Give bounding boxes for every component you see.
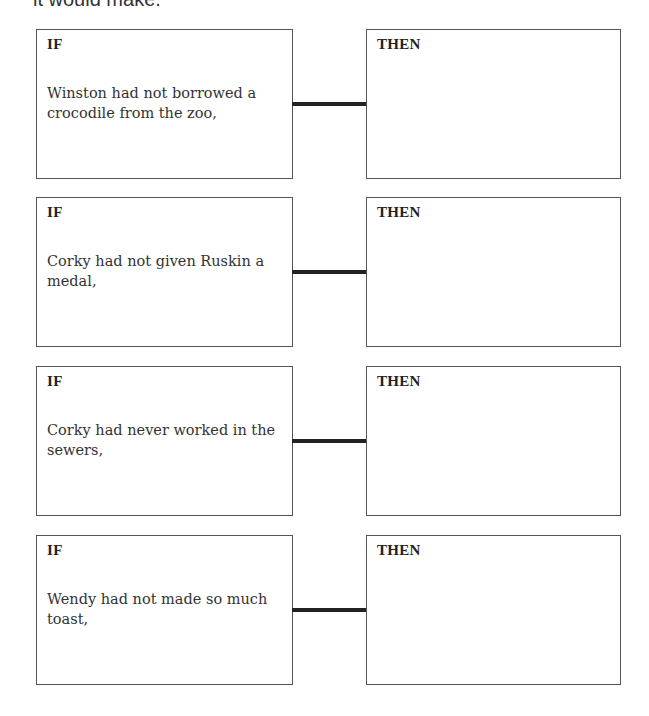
intro-text: it would make. <box>33 0 161 11</box>
then-label: THEN <box>377 204 421 221</box>
if-label: IF <box>47 542 63 559</box>
if-label: IF <box>47 204 63 221</box>
if-box: IF Wendy had not made so much toast, <box>36 535 293 685</box>
then-box[interactable]: THEN <box>366 29 621 179</box>
then-box[interactable]: THEN <box>366 535 621 685</box>
then-label: THEN <box>377 36 421 53</box>
connector-line <box>292 102 367 106</box>
if-condition: Wendy had not made so much toast, <box>47 589 287 629</box>
if-box: IF Corky had never worked in the sewers, <box>36 366 293 516</box>
then-label: THEN <box>377 373 421 390</box>
if-box: IF Winston had not borrowed a crocodile … <box>36 29 293 179</box>
if-then-pair-2: IF Corky had not given Ruskin a medal, T… <box>0 197 649 348</box>
if-then-pair-4: IF Wendy had not made so much toast, THE… <box>0 535 649 686</box>
connector-line <box>292 608 367 612</box>
then-box[interactable]: THEN <box>366 197 621 347</box>
if-then-pair-3: IF Corky had never worked in the sewers,… <box>0 366 649 517</box>
if-condition: Winston had not borrowed a crocodile fro… <box>47 83 287 123</box>
then-box[interactable]: THEN <box>366 366 621 516</box>
if-then-pair-1: IF Winston had not borrowed a crocodile … <box>0 29 649 180</box>
connector-line <box>292 270 367 274</box>
if-label: IF <box>47 373 63 390</box>
if-condition: Corky had never worked in the sewers, <box>47 420 287 460</box>
if-label: IF <box>47 36 63 53</box>
if-condition: Corky had not given Ruskin a medal, <box>47 251 287 291</box>
then-label: THEN <box>377 542 421 559</box>
connector-line <box>292 439 367 443</box>
if-box: IF Corky had not given Ruskin a medal, <box>36 197 293 347</box>
